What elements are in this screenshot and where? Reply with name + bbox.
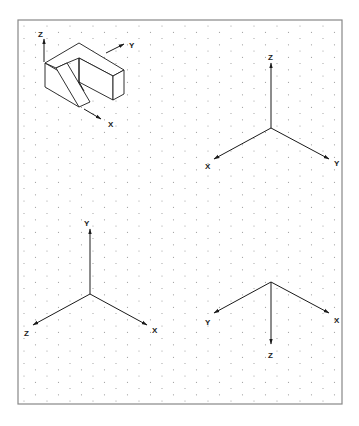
axis-y-label: Y [84,219,90,228]
axis-x-label: X [152,326,158,335]
axis-y-label: Y [205,318,211,327]
axis-z-label: Z [24,329,29,338]
axis-z-label: Z [268,351,273,360]
object-y-label: Y [129,41,135,50]
axis-x-label: X [205,162,211,171]
axis-z-label: Z [268,53,273,62]
axis-x-label: X [334,316,340,325]
object-z-label: Z [38,30,43,39]
isometric-grid-sheet: Z Y X Z X Y Y Z X Y X Z [0,0,359,426]
object-x-label: X [108,120,114,129]
axis-y-label: Y [334,159,340,168]
